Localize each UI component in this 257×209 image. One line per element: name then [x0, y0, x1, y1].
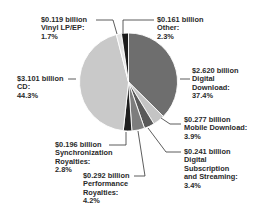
label-vinyl-percent: 1.7% [41, 33, 87, 41]
label-performance: $0.292 billion Performance Royalties: 4.… [83, 172, 129, 206]
pie-slices [80, 33, 178, 131]
label-streaming: $0.241 billion Digital Subscription and … [184, 148, 238, 190]
leader-line-stream [148, 128, 181, 152]
label-cd: $3.101 billion CD: 44.3% [17, 75, 63, 100]
leader-line-other [123, 20, 154, 34]
label-synchronization: $0.196 billion Synchronization Royalties… [55, 141, 113, 175]
label-digital-download: $2.620 billion Digital Download: 37.4% [192, 67, 238, 101]
label-cd-percent: 44.3% [17, 92, 63, 100]
label-perf-percent: 4.2% [83, 197, 129, 205]
leader-line-vinyl [96, 20, 117, 34]
label-digital-percent: 37.4% [192, 92, 238, 100]
leader-line-perf [134, 131, 145, 176]
label-other-percent: 2.3% [157, 33, 203, 41]
leader-line-mobile [161, 118, 181, 124]
label-mobile-download: $0.277 billion Mobile Download: 3.9% [184, 116, 247, 141]
label-mobile-percent: 3.9% [184, 133, 247, 141]
label-vinyl: $0.119 billion Vinyl LP/EP: 1.7% [41, 16, 87, 41]
label-other: $0.161 billion Other: 2.3% [157, 16, 203, 41]
label-stream-percent: 3.4% [184, 182, 238, 190]
